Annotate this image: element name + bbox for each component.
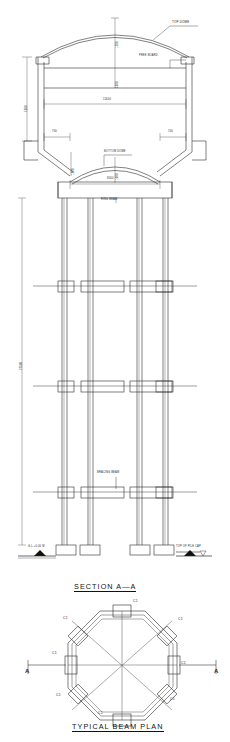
label-bracing-beam: BRACING BEAM (97, 472, 119, 475)
gallery-bracket-left (24, 141, 38, 160)
bracing-level-1 (33, 281, 197, 292)
label-ground-level: G.L.+0.00 M (28, 546, 45, 549)
radial-bracing (68, 611, 177, 720)
frustum-left-outer (38, 140, 70, 176)
plan-column-mark-se: C1 (170, 698, 175, 701)
plan-view-title: TYPICAL BEAM PLAN (72, 723, 164, 732)
section-arrow-label-left: A (25, 668, 30, 674)
dim-wall-height: 7500 (26, 105, 29, 112)
label-free-board: FREE BOARD (139, 55, 158, 58)
beam-ring-outer (68, 611, 177, 720)
label-bottom-dome: BOTTOM DOME (104, 151, 126, 154)
plan-column-mark-n: C1 (133, 600, 138, 603)
dim-ring-beam-offset-right: 700 (168, 131, 173, 134)
dim-water-depth: 4500 (117, 81, 120, 88)
frustum-right-outer (160, 140, 192, 176)
dim-staging-height: 27500 (21, 362, 24, 370)
plan-view-graphics (0, 598, 230, 733)
plan-column-mark-ne: C1 (178, 618, 183, 621)
dim-bottom-dome-rise: 1000 (117, 173, 120, 180)
beam-ring-mid (72, 615, 173, 716)
dim-ring-beam-offset-left: 700 (52, 131, 57, 134)
column-boxes (65, 605, 180, 726)
bracing-level-2 (33, 381, 197, 392)
beam-ring-inner (76, 619, 169, 712)
plan-column-mark-w: C1 (52, 652, 57, 655)
section-view-title: SECTION A—A (74, 583, 136, 592)
bottom-dome-leader (104, 155, 132, 166)
label-top-dome: TOP DOME (172, 21, 190, 24)
section-view-graphics (0, 0, 230, 600)
plan-column-mark-s: C1 (98, 712, 103, 715)
plan-column-mark-e: C1 (181, 662, 186, 665)
ring-beam (58, 182, 172, 198)
section-arrow-label-right: A (214, 668, 219, 674)
drawing-sheet: TOP DOME FREE BOARD BOTTOM DOME RING BEA… (0, 0, 230, 742)
pile-cap-level-tick (200, 551, 206, 556)
column-box-sw (68, 684, 88, 704)
gallery-bracket-right (192, 141, 206, 160)
dim-conical-drop: 1500 (73, 168, 76, 175)
bracing-level-3 (33, 487, 197, 498)
plan-column-mark-sw: C1 (56, 694, 61, 697)
dim-bottom-dome-span: 8000 (107, 178, 114, 181)
label-ring-beam: RING BEAM (101, 199, 117, 202)
dim-tank-inner-diameter: 11600 (103, 99, 111, 102)
top-dome-leader (153, 26, 198, 40)
label-top-of-pile-cap: TOP OF PILE CAP (176, 546, 201, 549)
dimension-lines (18, 18, 186, 545)
dim-top-dome-rise: 1200 (117, 41, 120, 48)
plan-column-mark-nw: C1 (63, 617, 68, 620)
pile-cap-level-symbol (184, 550, 196, 556)
ground-level-symbol (34, 550, 46, 556)
